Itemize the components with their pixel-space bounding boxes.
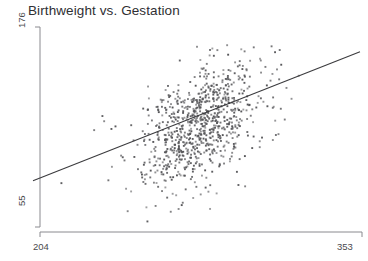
data-point <box>258 95 260 97</box>
data-point <box>204 125 206 127</box>
data-point <box>231 125 233 127</box>
data-point <box>209 154 211 156</box>
data-point <box>218 165 220 167</box>
data-point <box>224 120 226 122</box>
data-point <box>213 148 215 150</box>
data-point <box>210 137 212 139</box>
data-point <box>159 122 161 124</box>
data-point <box>188 163 190 165</box>
data-point <box>180 137 182 139</box>
data-point <box>216 192 218 194</box>
data-point <box>152 141 154 143</box>
data-point <box>184 136 186 138</box>
data-point <box>196 157 198 159</box>
data-point <box>168 166 170 168</box>
data-point <box>177 96 179 98</box>
data-point <box>205 73 207 75</box>
data-point <box>228 131 230 133</box>
data-point <box>213 100 215 102</box>
data-point <box>236 171 238 173</box>
data-point <box>189 81 191 83</box>
data-point <box>232 90 234 92</box>
data-point <box>170 103 172 105</box>
data-point <box>214 127 216 129</box>
data-point <box>259 146 261 148</box>
data-point <box>170 135 172 137</box>
data-point <box>229 158 231 160</box>
data-point <box>228 123 230 125</box>
data-point <box>206 63 208 65</box>
data-point <box>179 97 181 99</box>
data-point <box>194 124 196 126</box>
data-point <box>259 140 261 142</box>
data-point <box>206 123 208 125</box>
data-point <box>176 130 178 132</box>
data-point <box>214 120 216 122</box>
data-point <box>149 158 151 160</box>
data-point <box>190 178 192 180</box>
data-point <box>190 130 192 132</box>
data-point <box>202 125 204 127</box>
data-point <box>217 125 219 127</box>
data-point <box>162 173 164 175</box>
data-point <box>161 171 163 173</box>
data-point <box>202 91 204 93</box>
data-point <box>193 165 195 167</box>
data-point <box>235 143 237 145</box>
data-point <box>279 49 281 51</box>
data-point <box>182 110 184 112</box>
data-point <box>175 160 177 162</box>
data-point <box>196 46 198 48</box>
data-point <box>201 175 203 177</box>
data-point <box>157 108 159 110</box>
data-point <box>209 88 211 90</box>
data-point <box>187 106 189 108</box>
data-point <box>220 150 222 152</box>
data-point <box>229 79 231 81</box>
data-point <box>203 117 205 119</box>
data-point <box>201 92 203 94</box>
data-point <box>194 76 196 78</box>
data-point <box>179 151 181 153</box>
data-point <box>204 169 206 171</box>
data-point <box>224 150 226 152</box>
data-point <box>195 162 197 164</box>
data-point <box>185 188 187 190</box>
data-point <box>236 119 238 121</box>
data-point <box>161 114 163 116</box>
data-point <box>239 64 241 66</box>
data-point <box>207 120 209 122</box>
data-point <box>200 140 202 142</box>
data-point <box>235 116 237 118</box>
data-point <box>199 163 201 165</box>
data-point <box>246 109 248 111</box>
data-point <box>164 186 166 188</box>
data-point <box>199 165 201 167</box>
data-point <box>190 128 192 130</box>
data-point <box>195 107 197 109</box>
data-point <box>184 158 186 160</box>
data-point <box>141 174 143 176</box>
data-point <box>226 105 228 107</box>
data-point <box>278 78 280 80</box>
data-point <box>167 163 169 165</box>
data-point <box>187 114 189 116</box>
data-point <box>226 126 228 128</box>
data-point <box>193 147 195 149</box>
data-point <box>176 174 178 176</box>
data-point <box>223 146 225 148</box>
data-point <box>157 186 159 188</box>
data-point <box>165 155 167 157</box>
chart-canvas: Birthweight vs. Gestation 176 55 204 353 <box>0 0 368 261</box>
data-point <box>140 171 142 173</box>
data-point <box>210 106 212 108</box>
data-point <box>219 92 221 94</box>
data-point <box>200 123 202 125</box>
data-point <box>227 93 229 95</box>
data-point <box>241 79 243 81</box>
data-point <box>278 133 280 135</box>
data-point <box>225 78 227 80</box>
data-point <box>213 86 215 88</box>
data-point <box>201 163 203 165</box>
data-point <box>260 60 262 62</box>
